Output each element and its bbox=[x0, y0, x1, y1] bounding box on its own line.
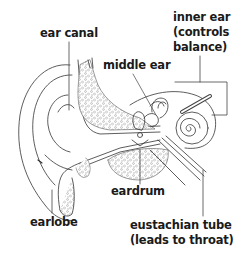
ear-diagram: ear canal inner ear (controls balance) m… bbox=[0, 0, 243, 264]
label-middle-ear: middle ear bbox=[103, 58, 170, 73]
label-eustachian-line2: (leads to throat) bbox=[130, 233, 234, 248]
cochlea bbox=[181, 118, 200, 136]
label-inner-ear: inner ear (controls balance) bbox=[173, 10, 230, 55]
label-inner-ear-line2: (controls bbox=[173, 25, 230, 40]
label-earlobe: earlobe bbox=[30, 215, 78, 230]
label-eustachian-tube: eustachian tube (leads to throat) bbox=[130, 218, 234, 248]
label-inner-ear-line3: balance) bbox=[173, 40, 230, 55]
label-eardrum: eardrum bbox=[111, 184, 165, 199]
label-eustachian-line1: eustachian tube bbox=[130, 218, 234, 233]
label-ear-canal: ear canal bbox=[40, 26, 98, 41]
label-inner-ear-line1: inner ear bbox=[173, 10, 230, 25]
